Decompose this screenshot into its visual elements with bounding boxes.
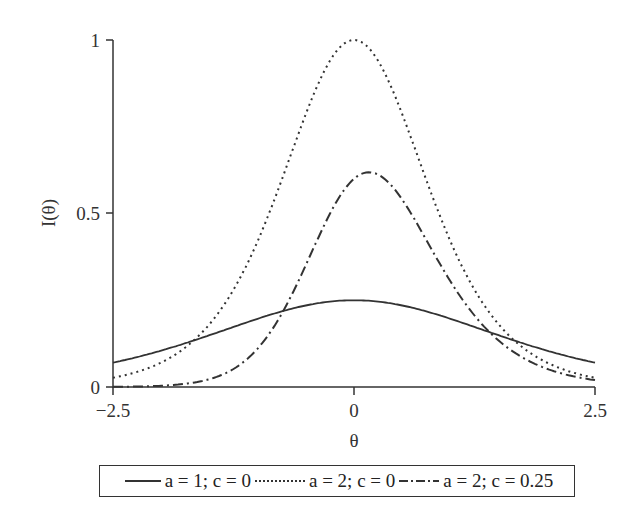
y-axis: 1 0.5 0 I(θ) (38, 30, 113, 398)
y-tick-0: 0 (91, 377, 101, 398)
x-axis: −2.5 0 2.5 θ (96, 387, 607, 451)
legend-label-1: a = 1; c = 0 (165, 470, 251, 492)
x-tick-neg2.5: −2.5 (96, 400, 130, 421)
series-a2-c0 (113, 40, 595, 378)
chart: 1 0.5 0 I(θ) −2.5 0 2.5 θ (0, 0, 639, 532)
y-axis-label: I(θ) (38, 199, 60, 227)
x-axis-label: θ (349, 430, 358, 451)
y-tick-0.5: 0.5 (76, 203, 100, 224)
series-a1-c0 (113, 300, 595, 362)
series-a2-c0.25 (113, 172, 595, 386)
legend-label-3: a = 2; c = 0.25 (443, 470, 553, 492)
legend-solid-line-icon (125, 480, 161, 482)
y-tick-1: 1 (91, 30, 101, 51)
x-tick-2.5: 2.5 (583, 400, 607, 421)
legend-dashdot-line-icon (399, 480, 439, 482)
legend: a = 1; c = 0 a = 2; c = 0 a = 2; c = 0.2… (99, 465, 575, 497)
x-tick-0: 0 (349, 400, 359, 421)
legend-label-2: a = 2; c = 0 (309, 470, 395, 492)
legend-dotted-line-icon (255, 480, 305, 482)
